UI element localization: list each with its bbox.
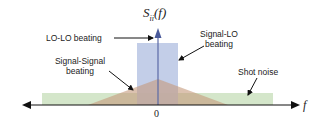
signal-signal-label-line1: Signal-Signal	[52, 56, 108, 66]
lo-lo-beating-label: LO-LO beating	[46, 33, 102, 43]
axis-right-arrow-icon	[291, 101, 300, 109]
shot-noise-label: Shot noise	[238, 67, 278, 77]
x-axis-label: f	[303, 98, 306, 112]
lo-lo-arrow-head	[155, 28, 162, 38]
shot-noise-pointer-arrow	[248, 78, 257, 95]
signal-signal-beating-label: Signal-Signal beating	[52, 56, 108, 76]
power-spectral-density-diagram: Sii(f) f 0 LO-LO beating Signal-Signal b…	[0, 0, 320, 123]
signal-signal-label-line2: beating	[52, 66, 108, 76]
signal-lo-label-line1: Signal-LO	[196, 29, 242, 39]
y-axis-label-arg: (f)	[154, 5, 166, 20]
origin-label: 0	[154, 108, 159, 120]
signal-lo-label-line2: beating	[196, 39, 242, 49]
axis-left-arrow-icon	[22, 101, 31, 109]
signal-signal-pointer-arrow	[109, 71, 133, 90]
signal-lo-beating-label: Signal-LO beating	[196, 29, 242, 49]
y-axis-label: Sii(f)	[143, 5, 166, 26]
